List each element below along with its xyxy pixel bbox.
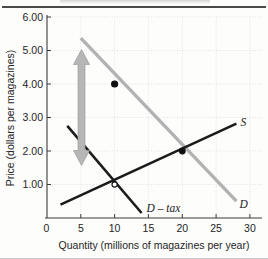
x-tick-label: 0 bbox=[44, 222, 50, 234]
demand-curve-d bbox=[81, 38, 237, 201]
y-tick-labels: 6.00 5.00 4.00 3.00 2.00 1.00 bbox=[23, 11, 44, 191]
supply-demand-tax-chart: 6.00 5.00 4.00 3.00 2.00 1.00 0 5 10 15 … bbox=[0, 0, 268, 259]
y-tick-label: 4.00 bbox=[23, 78, 44, 90]
x-tick-labels: 0 5 10 15 20 25 30 bbox=[44, 222, 256, 234]
demand-curve-label: D bbox=[239, 198, 249, 210]
y-tick-marks bbox=[47, 17, 51, 185]
y-tick-label: 6.00 bbox=[23, 11, 44, 23]
supply-curve-label: S bbox=[241, 116, 247, 128]
x-tick-marks bbox=[81, 214, 250, 218]
y-tick-label: 3.00 bbox=[23, 111, 44, 123]
after-tax-equilibrium-point bbox=[112, 182, 117, 187]
x-axis-title: Quantity (millions of magazines per year… bbox=[59, 239, 250, 251]
x-tick-label: 30 bbox=[244, 222, 256, 234]
supply-curve-s bbox=[61, 124, 237, 205]
x-tick-label: 20 bbox=[176, 222, 188, 234]
pre-tax-demand-point bbox=[111, 80, 118, 87]
figure-container: 6.00 5.00 4.00 3.00 2.00 1.00 0 5 10 15 … bbox=[0, 0, 268, 259]
y-tick-label: 2.00 bbox=[23, 145, 44, 157]
demand-minus-tax-label: D – tax bbox=[146, 202, 182, 214]
y-tick-label: 1.00 bbox=[23, 178, 44, 190]
market-equilibrium-point bbox=[179, 148, 186, 155]
x-tick-label: 25 bbox=[210, 222, 222, 234]
y-axis-title: Price (dollars per magazines) bbox=[4, 50, 16, 187]
x-tick-label: 10 bbox=[109, 222, 121, 234]
x-tick-label: 15 bbox=[143, 222, 155, 234]
y-tick-label: 5.00 bbox=[23, 44, 44, 56]
x-tick-label: 5 bbox=[78, 222, 84, 234]
